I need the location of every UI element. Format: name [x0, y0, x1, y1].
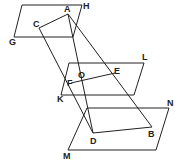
- point-label-m: M: [63, 151, 71, 161]
- point-label-a: A: [64, 4, 71, 14]
- segment-ac: [39, 14, 68, 28]
- point-label-o: O: [78, 70, 85, 80]
- point-label-b: B: [148, 129, 155, 139]
- point-label-n: N: [167, 98, 174, 108]
- point-label-f: F: [67, 78, 73, 88]
- point-label-h: H: [83, 1, 90, 11]
- segment-db: [93, 127, 152, 133]
- segment-cd: [39, 28, 93, 133]
- geometry-diagram: AHCGLOEFKNBDM: [0, 0, 183, 168]
- point-label-c: C: [33, 19, 40, 29]
- point-label-e: E: [114, 66, 120, 76]
- point-label-d: D: [90, 136, 97, 146]
- point-label-k: K: [57, 94, 64, 104]
- plane-kl: [61, 63, 144, 95]
- point-label-g: G: [9, 37, 16, 47]
- point-label-l: L: [142, 52, 148, 62]
